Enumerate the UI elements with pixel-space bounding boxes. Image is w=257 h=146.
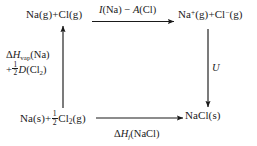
node-bottom-left-fraction-one-half: 12 xyxy=(52,110,58,126)
edge-label-formation-enthalpy: ΔHf(NaCl) xyxy=(114,128,159,140)
edge-label-ionization-minus-affinity: I(Na) − A(Cl) xyxy=(99,4,156,16)
vap-subscript: vap xyxy=(20,54,30,61)
node-na-g-plus-cl-g: Na(g)+Cl(g) xyxy=(26,9,82,21)
vap-argument: (Na) xyxy=(30,49,49,60)
formation-argument: (NaCl) xyxy=(130,128,159,139)
ionization-argument: (Na) xyxy=(103,4,122,15)
edge-label-vaporization-and-dissociation: ΔHvap(Na) +12D(Cl2) xyxy=(6,49,50,77)
edge-label-lattice-energy: U xyxy=(212,62,220,74)
node-bottom-left-species-1: Na(s) xyxy=(20,112,45,124)
electron-affinity-argument: (Cl) xyxy=(139,4,156,15)
node-top-left-species-2: Cl(g) xyxy=(58,8,82,20)
node-top-right-species-2: Cl xyxy=(215,8,226,20)
node-bottom-left-species-2: Cl xyxy=(58,112,69,124)
node-na-cation-plus-cl-anion: Na+(g)+Cl−(g) xyxy=(178,9,243,21)
delta-symbol: Δ xyxy=(6,49,13,60)
born-haber-cycle-diagram: Na(g)+Cl(g) Na+(g)+Cl−(g) Na(s)+12Cl2(g)… xyxy=(0,0,257,146)
node-top-right-species-1: Na xyxy=(178,8,191,20)
dissociation-argument-close: ) xyxy=(43,64,47,75)
node-na-s-plus-half-cl2-g: Na(s)+12Cl2(g) xyxy=(20,110,86,126)
edge-label-left-fraction-one-half: 12 xyxy=(12,61,18,77)
node-bottom-left-plus: + xyxy=(45,112,51,124)
node-bottom-left-state-2: (g) xyxy=(73,112,86,124)
node-nacl-s: NaCl(s) xyxy=(185,110,221,122)
fraction-denominator: 2 xyxy=(12,69,18,76)
delta-symbol: Δ xyxy=(114,128,121,139)
dissociation-argument-open: (Cl xyxy=(26,64,39,75)
edge-label-left-line-2: +12D(Cl2) xyxy=(6,61,50,77)
node-top-left-species-1: Na(g) xyxy=(26,8,52,20)
minus-operator: − xyxy=(124,4,130,15)
fraction-denominator: 2 xyxy=(52,119,58,127)
node-top-right-state-1: (g) xyxy=(195,8,208,20)
node-top-right-state-2: (g) xyxy=(229,8,242,20)
plus-operator: + xyxy=(6,64,12,75)
